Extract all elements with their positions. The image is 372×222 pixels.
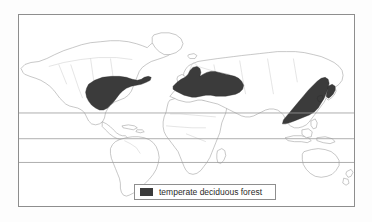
new-guinea-outline	[317, 137, 335, 144]
new-zealand-south-outline	[343, 178, 349, 185]
map-frame	[18, 14, 355, 207]
central-america-outline	[103, 122, 128, 140]
madagascar-outline	[217, 149, 226, 164]
biome-region-north-america	[86, 76, 152, 110]
philippines-outline	[311, 119, 317, 129]
hispaniola-outline	[136, 130, 144, 133]
legend-swatch-temperate-deciduous-forest	[140, 188, 153, 196]
australia-outline	[302, 149, 339, 178]
new-zealand-outline	[346, 169, 353, 177]
iceland-outline	[188, 54, 197, 59]
world-map	[19, 15, 354, 206]
legend-label: temperate deciduous forest	[159, 188, 262, 197]
caribbean-outline	[122, 125, 137, 130]
figure-container: temperate deciduous forest	[0, 0, 372, 222]
map-legend: temperate deciduous forest	[134, 184, 276, 200]
